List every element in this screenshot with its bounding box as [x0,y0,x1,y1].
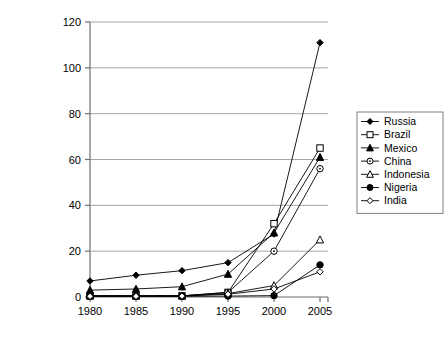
x-tick-label: 2000 [262,305,286,317]
grid-lines [90,22,328,251]
data-point-filled-circle [367,185,373,191]
x-tick-label: 1995 [216,305,240,317]
data-point-open-square [317,145,323,151]
data-point-filled-triangle [316,153,323,160]
data-point-center [369,160,371,162]
chart-legend: RussiaBrazilMexicoChinaIndonesiaNigeriaI… [357,112,443,213]
series-brazil [87,145,323,299]
legend-label: India [384,194,407,206]
y-tick-labels: 020406080100120 [63,16,90,303]
y-tick-label: 60 [69,154,81,166]
y-tick-label: 80 [69,108,81,120]
y-tick-label: 100 [63,62,81,74]
x-tick-label: 1985 [124,305,148,317]
series-china [87,165,323,299]
data-point-open-square [271,220,277,226]
series-line [90,157,320,290]
data-point-filled-diamond [317,39,323,45]
legend-label: Nigeria [384,181,417,193]
x-tick-label: 2005 [308,305,332,317]
x-tick-labels: 198019851990199520002005 [78,297,332,317]
data-series [86,39,323,299]
line-chart: Total phones per 100 people 020406080100… [0,0,448,338]
y-tick-label: 20 [69,245,81,257]
data-point-filled-circle [271,292,277,298]
data-point-filled-diamond [225,259,231,265]
legend-label: Mexico [384,142,417,154]
data-point-filled-diamond [179,267,185,273]
data-point-filled-circle [317,262,323,268]
data-point-open-triangle [316,236,323,243]
x-tick-label: 1980 [78,305,102,317]
series-line [90,272,320,297]
y-tick-label: 120 [63,16,81,28]
y-tick-label: 0 [75,291,81,303]
legend-label: China [384,155,412,167]
legend-label: Brazil [384,128,410,140]
data-point-center [273,250,275,252]
data-point-center [319,168,321,170]
series-russia [87,39,323,284]
legend-label: Russia [384,115,416,127]
legend-label: Indonesia [384,168,430,180]
y-tick-label: 40 [69,199,81,211]
data-point-open-square [367,132,373,138]
data-point-filled-diamond [87,278,93,284]
series-india [87,269,323,300]
data-point-filled-triangle [270,229,277,236]
x-tick-label: 1990 [170,305,194,317]
data-point-open-diamond [317,269,323,275]
data-point-filled-diamond [133,272,139,278]
series-line [90,43,320,281]
chart-canvas: 020406080100120 198019851990199520002005… [0,0,448,338]
